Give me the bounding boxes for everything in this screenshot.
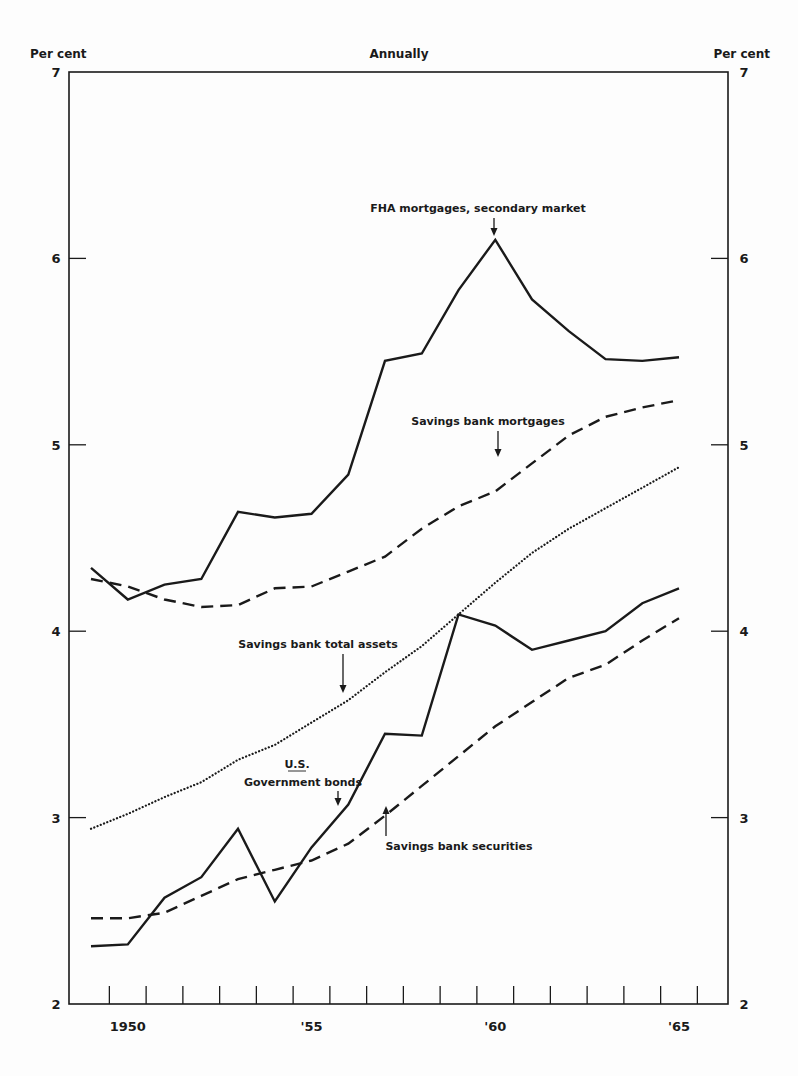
- y-tick-label-right: 4: [739, 624, 748, 639]
- sb-total-assets-label: Savings bank total assets: [238, 638, 398, 651]
- sb-mortgages-label: Savings bank mortgages: [411, 415, 565, 428]
- annotation-us-govt-bonds: U.S. Government bonds: [244, 758, 362, 806]
- us-govt-label-line2: Government bonds: [244, 776, 362, 789]
- y-tick-label-left: 4: [51, 624, 60, 639]
- arrow-head-icon: [383, 806, 390, 814]
- y-tick-label-left: 7: [51, 65, 60, 80]
- y-tick-label-right: 5: [739, 438, 748, 453]
- y-tick-label-left: 3: [51, 811, 60, 826]
- annotation-fha: FHA mortgages, secondary market: [370, 202, 586, 236]
- y-tick-label-right: 7: [739, 65, 748, 80]
- arrow-head-icon: [335, 798, 342, 806]
- sb-securities-label: Savings bank securities: [385, 840, 533, 853]
- arrow-head-icon: [495, 449, 502, 457]
- x-axis: 1950'55'60'65: [109, 986, 697, 1034]
- y-tick-label-left: 6: [51, 251, 60, 266]
- series-savings-bank-securities: [91, 618, 679, 918]
- arrow-head-icon: [340, 685, 347, 693]
- y-tick-label-right: 2: [739, 997, 748, 1012]
- right-axis-unit-label: Per cent: [713, 47, 770, 61]
- y-tick-label-right: 6: [739, 251, 748, 266]
- chart-title: Annually: [369, 47, 428, 61]
- y-axis-right: 234567: [711, 65, 749, 1012]
- x-tick-label: '55: [300, 1019, 322, 1034]
- arrow-head-icon: [491, 228, 498, 236]
- y-tick-label-left: 2: [51, 997, 60, 1012]
- line-chart: Per cent Annually Per cent 234567 234567…: [0, 0, 798, 1076]
- x-tick-label: '65: [668, 1019, 690, 1034]
- x-tick-label: 1950: [110, 1019, 146, 1034]
- left-axis-unit-label: Per cent: [30, 47, 87, 61]
- annotation-sb-total-assets: Savings bank total assets: [238, 638, 398, 693]
- x-tick-label: '60: [484, 1019, 506, 1034]
- fha-label: FHA mortgages, secondary market: [370, 202, 586, 215]
- annotation-sb-mortgages: Savings bank mortgages: [411, 415, 565, 457]
- us-govt-label-line1: U.S.: [284, 758, 309, 771]
- y-tick-label-left: 5: [51, 438, 60, 453]
- annotation-sb-securities: Savings bank securities: [383, 806, 534, 853]
- series-savings-bank-mortgages: [91, 400, 679, 607]
- series-fha-mortgages-secondary-market: [91, 240, 679, 600]
- y-tick-label-right: 3: [739, 811, 748, 826]
